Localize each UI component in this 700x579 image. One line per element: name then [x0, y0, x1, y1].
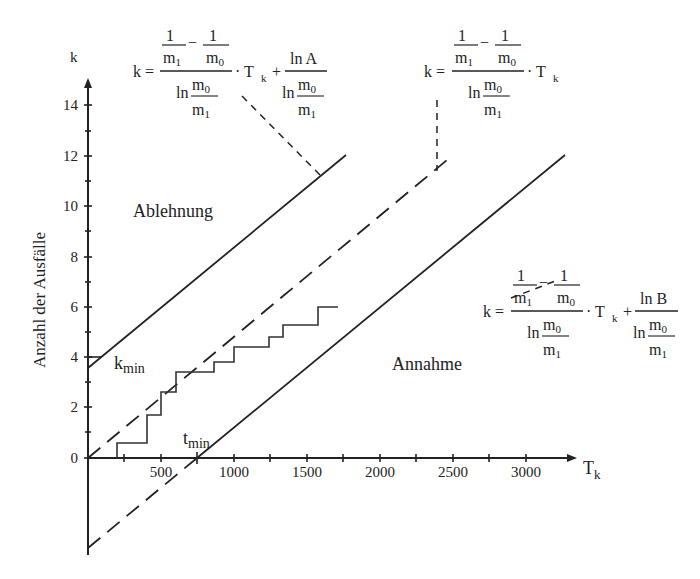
- y-tick-6: 6: [71, 299, 79, 315]
- y-tick-2: 2: [71, 399, 79, 415]
- svg-text:−: −: [480, 34, 489, 51]
- svg-text:m0: m0: [543, 316, 561, 335]
- svg-text:k =: k =: [424, 63, 445, 80]
- svg-text:+: +: [623, 303, 632, 320]
- svg-text:m0: m0: [298, 76, 316, 95]
- svg-text:1: 1: [166, 27, 174, 44]
- x-tick-500: 500: [150, 464, 173, 480]
- y-tick-0: 0: [71, 450, 79, 466]
- x-axis: 500 1000 1500 2000 2500 3000 Tk: [88, 452, 601, 482]
- svg-text:1: 1: [560, 267, 568, 284]
- y-tick-12: 12: [63, 148, 78, 164]
- y-axis-symbol: k: [70, 49, 78, 65]
- x-axis-symbol: Tk: [583, 458, 601, 482]
- svg-text:m0: m0: [484, 76, 502, 95]
- reject-boundary-line: [88, 155, 346, 368]
- svg-text:k =: k =: [133, 63, 154, 80]
- failure-staircase: [117, 307, 338, 458]
- formula-leaders: [242, 96, 558, 298]
- svg-text:m1: m1: [455, 49, 473, 68]
- svg-text:m1: m1: [543, 341, 561, 360]
- sequential-test-chart: k 0 2 4 6 8 10 12 14 An: [0, 0, 700, 579]
- svg-text:ln B: ln B: [640, 290, 667, 307]
- svg-text:1: 1: [458, 27, 466, 44]
- svg-text:k: k: [612, 312, 618, 324]
- svg-text:ln: ln: [176, 84, 188, 101]
- svg-text:· T: · T: [586, 303, 605, 320]
- svg-text:−: −: [188, 34, 197, 51]
- x-tick-2000: 2000: [365, 464, 395, 480]
- svg-text:ln: ln: [468, 84, 480, 101]
- svg-text:m0: m0: [557, 289, 575, 308]
- y-axis: k 0 2 4 6 8 10 12 14 An: [30, 49, 92, 555]
- svg-text:−: −: [539, 274, 548, 291]
- svg-text:ln: ln: [282, 84, 294, 101]
- svg-text:m1: m1: [484, 101, 502, 120]
- region-label-accept: Annahme: [392, 354, 462, 374]
- svg-text:· T: · T: [527, 63, 546, 80]
- svg-text:1: 1: [209, 27, 217, 44]
- formula-accept: k = 1 − 1 m1 m0 ln m0 m1 · T k + ln B ln…: [483, 267, 678, 360]
- svg-text:k =: k =: [483, 303, 504, 320]
- y-tick-14: 14: [63, 97, 79, 113]
- x-tick-2500: 2500: [438, 464, 468, 480]
- accept-boundary-extension-dashed: [88, 458, 197, 548]
- y-tick-4: 4: [71, 349, 79, 365]
- svg-text:1: 1: [501, 27, 509, 44]
- svg-text:ln: ln: [633, 324, 645, 341]
- svg-text:1: 1: [517, 267, 525, 284]
- tmin-label: tmin: [183, 428, 210, 451]
- svg-text:ln A: ln A: [290, 50, 318, 67]
- svg-text:· T: · T: [235, 63, 254, 80]
- formula-middle: k = 1 − 1 m1 m0 ln m0 m1 · T k: [424, 27, 559, 120]
- svg-text:m0: m0: [206, 49, 224, 68]
- svg-text:m1: m1: [192, 101, 210, 120]
- svg-text:k: k: [261, 72, 267, 84]
- svg-text:m1: m1: [649, 341, 667, 360]
- x-tick-1500: 1500: [292, 464, 322, 480]
- svg-text:m0: m0: [498, 49, 516, 68]
- svg-text:m0: m0: [649, 316, 667, 335]
- y-axis-label: Anzahl der Ausfälle: [30, 232, 49, 368]
- svg-text:m1: m1: [163, 49, 181, 68]
- y-tick-8: 8: [71, 249, 79, 265]
- formula-reject: k = 1 − 1 m1 m0 ln m0 m1 · T k + ln A ln…: [133, 27, 327, 120]
- x-tick-1000: 1000: [219, 464, 249, 480]
- kmin-label: kmin: [114, 353, 145, 376]
- region-label-reject: Ablehnung: [133, 201, 213, 221]
- svg-text:m0: m0: [192, 76, 210, 95]
- svg-text:m1: m1: [298, 101, 316, 120]
- svg-text:ln: ln: [527, 324, 539, 341]
- x-tick-3000: 3000: [511, 464, 541, 480]
- svg-text:m1: m1: [514, 289, 532, 308]
- accept-boundary-line: [197, 155, 565, 458]
- y-tick-10: 10: [63, 198, 78, 214]
- svg-text:k: k: [553, 72, 559, 84]
- svg-text:+: +: [272, 63, 281, 80]
